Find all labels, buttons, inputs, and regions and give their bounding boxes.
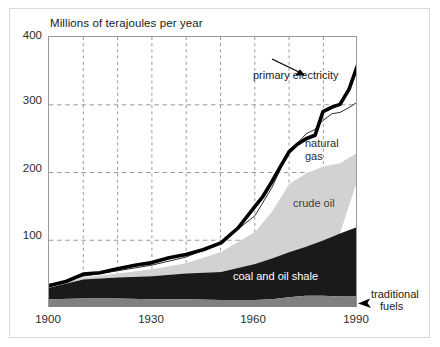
- annotation-natural-gas-line1: natural: [305, 137, 339, 150]
- annotation-primary-electricity: primary electricity: [253, 69, 339, 82]
- y-tick-label-400: 400: [8, 29, 42, 41]
- y-tick-label-300: 300: [8, 94, 42, 106]
- annotation-natural-gas-line2: gas: [305, 150, 339, 163]
- y-tick-label-100: 100: [8, 229, 42, 241]
- traditional-fuels-arrow-icon: [358, 297, 372, 309]
- x-tick-label-1930: 1930: [129, 313, 173, 325]
- x-tick-label-1990: 1990: [334, 313, 378, 325]
- annotation-coal-and-oil-shale: coal and oil shale: [233, 270, 318, 283]
- y-tick-label-200: 200: [8, 162, 42, 174]
- chart-title: Millions of terajoules per year: [50, 17, 203, 29]
- annotation-crude-oil: crude oil: [293, 197, 335, 210]
- annotation-traditional-fuels-line2: fuels: [380, 301, 419, 313]
- x-tick-label-1900: 1900: [26, 313, 70, 325]
- annotation-traditional-fuels-line1: traditional: [371, 289, 419, 301]
- annotation-traditional-fuels: traditional fuels: [371, 289, 419, 312]
- x-tick-label-1960: 1960: [231, 313, 275, 325]
- chart-page: Millions of terajoules per year 400 300 …: [0, 0, 440, 347]
- annotation-natural-gas: natural gas: [305, 137, 339, 162]
